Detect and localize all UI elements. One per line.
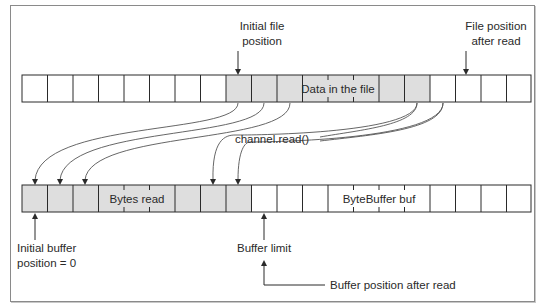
initial-file-position: Initial file position [235,20,284,75]
svg-text:position = 0: position = 0 [17,257,76,269]
channel-read-label: channel.read() [235,133,309,145]
svg-text:Initial buffer: Initial buffer [17,242,76,254]
svg-text:position: position [242,35,282,47]
buffer-limit: Buffer limit [237,213,292,254]
svg-text:Initial file: Initial file [240,20,285,32]
buffer-row: Bytes read ByteBuffer buf [22,185,531,212]
file-position-after-read: File position after read [463,20,527,75]
svg-text:File position: File position [465,20,526,32]
data-in-file-label: Data in the file [301,83,375,95]
file-channel-read-diagram: Data in the file Bytes read ByteBuffer b… [0,0,543,308]
svg-text:after read: after read [471,35,520,47]
svg-text:Buffer position after read: Buffer position after read [330,279,456,291]
file-row: Data in the file [22,75,531,102]
buffer-position-after-read: Buffer position after read [261,260,456,291]
arrowheads [32,179,241,185]
bytes-read-label: Bytes read [110,193,165,205]
byte-buffer-label: ByteBuffer buf [343,193,416,205]
svg-text:Buffer limit: Buffer limit [237,242,292,254]
initial-buffer-position: Initial buffer position = 0 [17,213,76,269]
